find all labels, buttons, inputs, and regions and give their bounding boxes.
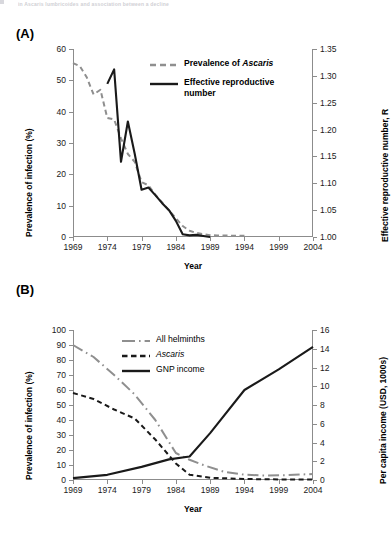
legend-label: Effective reproductivenumber [184, 77, 274, 98]
legend-item: GNP income [122, 364, 205, 376]
y-tick-mark [69, 420, 73, 421]
y-tick-mark [69, 80, 73, 81]
y2-tick-label: 4 [320, 438, 325, 447]
y-tick-mark [69, 465, 73, 466]
y2-tick-label: 1.35 [320, 45, 337, 54]
panel-a: (A) 01020304050601.001.051.101.151.201.2… [0, 14, 392, 276]
y-tick-label: 50 [57, 401, 66, 410]
x-tick-label: 1989 [201, 486, 220, 495]
series-line [73, 393, 313, 480]
y-tick-mark [69, 143, 73, 144]
x-tick-mark [176, 237, 177, 241]
y-tick-label: 80 [57, 356, 66, 365]
x-tick-mark [244, 480, 245, 484]
x-tick-label: 1979 [132, 243, 151, 252]
y2-tick-label: 8 [320, 401, 325, 410]
x-tick-mark [279, 237, 280, 241]
y-tick-mark [69, 360, 73, 361]
y-tick-label: 0 [61, 233, 66, 242]
y2-tick-label: 0 [320, 476, 325, 485]
y-tick-label: 20 [57, 170, 66, 179]
y2-tick-label: 10 [320, 382, 329, 391]
legend-item: All helminths [122, 334, 205, 346]
x-tick-label: 1989 [201, 243, 220, 252]
x-tick-mark [313, 237, 314, 241]
legend-item: Prevalence of Ascaris [150, 58, 274, 70]
y2-tick-mark [313, 210, 317, 211]
legend-label: All helminths [156, 334, 205, 345]
x-tick-label: 1969 [64, 243, 83, 252]
x-tick-mark [107, 480, 108, 484]
y-tick-mark [69, 375, 73, 376]
x-tick-label: 2004 [304, 486, 323, 495]
x-tick-mark [210, 480, 211, 484]
running-head: in Ascaris lumbricoides and association … [18, 1, 374, 9]
panel-b-letter: (B) [16, 282, 34, 297]
x-tick-label: 1974 [98, 486, 117, 495]
y-tick-mark [69, 405, 73, 406]
x-tick-label: 1999 [269, 486, 288, 495]
y-tick-mark [69, 345, 73, 346]
x-tick-mark [142, 237, 143, 241]
y2-tick-mark [313, 405, 317, 406]
y-tick-label: 60 [57, 45, 66, 54]
x-tick-label: 1974 [98, 243, 117, 252]
y-tick-label: 40 [57, 107, 66, 116]
panel-a-y2label: Effective reproductive number, R [380, 109, 390, 242]
x-tick-label: 2004 [304, 243, 323, 252]
y2-tick-label: 14 [320, 345, 329, 354]
y2-tick-mark [313, 461, 317, 462]
dashdot-gray-line-icon [122, 336, 150, 346]
legend-item: Ascaris [122, 349, 205, 361]
x-tick-label: 1984 [166, 243, 185, 252]
y-tick-label: 60 [57, 386, 66, 395]
panel-a-xlabel: Year [73, 261, 313, 271]
panel-b-y2label: Per capita income (USD, 1000s) [378, 357, 388, 484]
panel-b-ylabel: Prevalence of infection (%) [24, 371, 34, 480]
y2-tick-mark [313, 368, 317, 369]
y2-tick-mark [313, 103, 317, 104]
y2-tick-mark [313, 330, 317, 331]
y-tick-mark [69, 206, 73, 207]
y-tick-label: 50 [57, 76, 66, 85]
y-tick-mark [69, 174, 73, 175]
dashed-black-line-icon [122, 351, 150, 361]
legend-label: Ascaris [156, 349, 184, 360]
x-tick-mark [313, 480, 314, 484]
y2-tick-mark [313, 349, 317, 350]
y2-tick-label: 6 [320, 420, 325, 429]
y-tick-label: 70 [57, 371, 66, 380]
page-marker [0, 0, 4, 4]
x-tick-mark [107, 237, 108, 241]
y-tick-label: 90 [57, 341, 66, 350]
x-tick-mark [244, 237, 245, 241]
y-tick-label: 100 [52, 326, 66, 335]
panel-a-ylabel: Prevalence of infection (%) [24, 128, 34, 237]
x-tick-label: 1994 [235, 486, 254, 495]
y2-tick-mark [313, 443, 317, 444]
panel-b-xlabel: Year [73, 504, 313, 514]
legend-label: Prevalence of Ascaris [184, 58, 273, 69]
panel-b-legend: All helminths Ascaris GNP income [122, 334, 205, 379]
figure-page: in Ascaris lumbricoides and association … [0, 0, 392, 553]
x-tick-label: 1984 [166, 486, 185, 495]
y2-tick-mark [313, 49, 317, 50]
y-tick-label: 0 [61, 476, 66, 485]
y2-tick-label: 1.05 [320, 206, 337, 215]
y-tick-label: 40 [57, 416, 66, 425]
y2-tick-label: 12 [320, 363, 329, 372]
y2-tick-mark [313, 386, 317, 387]
solid-black-line-icon [122, 366, 150, 376]
y-tick-mark [69, 450, 73, 451]
x-tick-mark [176, 480, 177, 484]
panel-a-letter: (A) [16, 26, 34, 41]
legend-label: GNP income [156, 364, 205, 375]
x-tick-label: 1979 [132, 486, 151, 495]
y-tick-label: 30 [57, 431, 66, 440]
y-tick-mark [69, 112, 73, 113]
y2-tick-mark [313, 76, 317, 77]
x-tick-label: 1969 [64, 486, 83, 495]
x-tick-label: 1999 [269, 243, 288, 252]
y-tick-mark [69, 330, 73, 331]
y2-tick-label: 16 [320, 326, 329, 335]
